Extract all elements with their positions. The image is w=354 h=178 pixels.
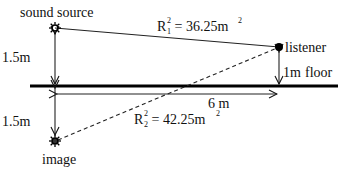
image-source-diagram: floor 1.5m 1.5m 1m 6 m sound source imag bbox=[0, 0, 354, 178]
image-source-icon bbox=[49, 135, 61, 147]
listener-label: listener bbox=[285, 40, 327, 55]
listener-height-label: 1m bbox=[283, 65, 301, 80]
r2-value: = 42.25m bbox=[148, 112, 205, 127]
floor-label: floor bbox=[305, 65, 333, 80]
sound-source-label: sound source bbox=[20, 5, 94, 20]
reflected-path-label: R 2 2 = 42.25m 2 bbox=[134, 109, 220, 129]
r1-unit-exponent: 2 bbox=[238, 16, 242, 25]
direct-path-label: R 2 1 = 36.25m 2 bbox=[157, 16, 242, 36]
r2-symbol: R bbox=[134, 112, 144, 127]
image-depth-label: 1.5m bbox=[2, 114, 31, 129]
r1-symbol: R bbox=[157, 19, 167, 34]
listener-icon bbox=[275, 43, 283, 51]
source-height-label: 1.5m bbox=[2, 50, 31, 65]
r1-value: = 36.25m bbox=[171, 19, 228, 34]
image-label: image bbox=[42, 152, 76, 167]
r2-unit-exponent: 2 bbox=[216, 109, 220, 118]
